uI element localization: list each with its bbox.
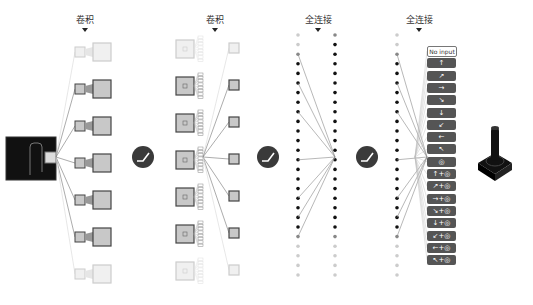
input-to-conv1-line (56, 157, 75, 274)
fc2-input-neuron (395, 120, 399, 124)
conv2-filter-line (194, 160, 198, 171)
conv2-input-map (176, 77, 194, 95)
joystick-stick (491, 127, 499, 161)
fc2-input-neuron (395, 206, 399, 210)
conv1-kernel (75, 195, 85, 205)
input-receptive-field (45, 152, 56, 163)
conv2-filter-stack (198, 194, 203, 196)
conv2-filter-stack (198, 46, 203, 48)
fc1-output-neuron (333, 254, 337, 258)
conv2-filter-stack (198, 191, 203, 193)
conv2-to-output-line (203, 157, 229, 270)
conv1-projection (85, 269, 93, 279)
fc1-input-neuron (296, 33, 300, 37)
conv2-filter-stack (198, 204, 203, 206)
relu-activation-icon-1 (132, 146, 154, 168)
conv2-filter-line (194, 234, 198, 245)
conv1-kernel (75, 269, 85, 279)
fc1-output-neuron (333, 33, 337, 37)
conv2-filter-stack (198, 93, 203, 95)
fc1-input-neuron (296, 273, 300, 277)
conv2-filter-stack (198, 154, 203, 156)
fc2-input-neuron (395, 264, 399, 268)
conv2-filter-stack (198, 268, 203, 270)
conv2-filter-stack (198, 43, 203, 45)
conv2-filter-stack (198, 184, 203, 186)
conv2-filter-stack (198, 207, 203, 209)
fc2-to-action-line (415, 76, 427, 157)
fc1-input-neuron (296, 206, 300, 210)
conv2-filter-stack (198, 197, 203, 199)
fc1-output-neuron (333, 91, 337, 95)
conv1-kernel (75, 47, 85, 57)
conv1-feature-map (93, 80, 111, 98)
conv2-filter-stack (198, 133, 203, 135)
fc2-connection (397, 157, 427, 160)
conv2-input-map (176, 262, 194, 280)
fc2-connection (397, 157, 427, 237)
conv2-filter-stack (198, 157, 203, 159)
conv2-filter-stack (198, 123, 203, 125)
conv2-input-map (176, 225, 194, 243)
conv2-filter-stack (198, 130, 203, 132)
conv1-projection (85, 47, 93, 57)
joystick-top (491, 126, 499, 130)
fc1-output-neuron (333, 43, 337, 47)
fc1-input-neuron (296, 187, 300, 191)
fc1-input-neuron (296, 43, 300, 47)
conv2-filter-stack (198, 221, 203, 223)
input-to-conv1-line (56, 89, 75, 157)
conv1-feature-map (93, 228, 111, 246)
conv1-kernel (75, 121, 85, 131)
label-conv1: 卷积 (55, 13, 115, 26)
fc1-input-neuron (296, 254, 300, 258)
action-11: ↗+◎ (427, 181, 456, 191)
conv1-projection (85, 158, 93, 168)
conv2-filter-stack (198, 241, 203, 243)
conv2-filter-stack (198, 110, 203, 112)
fc1-output-neuron (333, 52, 337, 56)
relu-activation-icon-2 (257, 146, 279, 168)
conv2-filter-stack (198, 258, 203, 260)
fc2-input-neuron (395, 91, 399, 95)
fc1-input-neuron (296, 168, 300, 172)
conv2-filter-stack (198, 117, 203, 119)
conv2-input-map (176, 188, 194, 206)
conv2-filter-stack (198, 36, 203, 38)
conv2-filter-stack (198, 167, 203, 169)
conv2-to-output-line (203, 157, 229, 196)
fc1-input-neuron (296, 72, 300, 76)
conv2-filter-stack (198, 201, 203, 203)
conv2-filter-stack (198, 56, 203, 58)
fc1-input-neuron (296, 244, 300, 248)
conv2-filter-stack (198, 234, 203, 236)
action-3: → (427, 83, 456, 93)
action-5: ↓ (427, 108, 456, 118)
conv1-feature-map (93, 191, 111, 209)
conv2-filter-stack (198, 86, 203, 88)
fc1-output-neuron (333, 206, 337, 210)
conv2-output-unit (229, 265, 239, 275)
fc1-connection (298, 157, 335, 217)
fc2-input-neuron (395, 139, 399, 143)
fc1-input-neuron (296, 129, 300, 133)
conv2-filter-stack (198, 160, 203, 162)
conv2-input-map (176, 114, 194, 132)
conv2-filter-stack (198, 261, 203, 263)
conv2-filter-line (194, 271, 198, 282)
fc1-output-neuron (333, 72, 337, 76)
fc1-connection (298, 157, 335, 160)
fc1-output-neuron (333, 187, 337, 191)
fc1-output-neuron (333, 196, 337, 200)
conv2-filter-stack (198, 231, 203, 233)
conv2-filter-stack (198, 224, 203, 226)
conv1-feature-map (93, 154, 111, 172)
conv2-filter-line (194, 86, 198, 97)
fc1-input-neuron (296, 139, 300, 143)
conv1-projection (85, 84, 93, 94)
conv2-filter-stack (198, 187, 203, 189)
fc1-output-neuron (333, 225, 337, 229)
label-fc1: 全连接 (288, 13, 348, 26)
conv1-feature-map (93, 117, 111, 135)
fc1-input-neuron (296, 177, 300, 181)
